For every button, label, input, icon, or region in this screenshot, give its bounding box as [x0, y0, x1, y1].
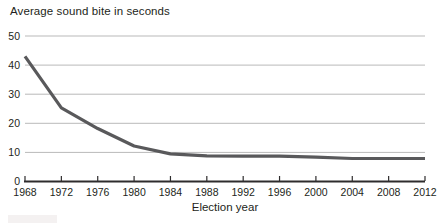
y-tick-label: 30 — [8, 88, 20, 100]
y-tick-label: 40 — [8, 59, 20, 71]
x-tick-label: 2008 — [377, 186, 401, 198]
soundbite-line-chart: 0102030405019681972197619801984198819921… — [0, 0, 439, 223]
x-axis-label: Election year — [25, 201, 425, 213]
x-tick-label: 2012 — [413, 186, 437, 198]
x-tick-label: 1992 — [232, 186, 256, 198]
x-tick-label: 1968 — [13, 186, 37, 198]
chart-canvas: 0102030405019681972197619801984198819921… — [0, 0, 439, 223]
x-tick-label: 1984 — [159, 186, 183, 198]
x-tick-label: 2000 — [304, 186, 328, 198]
x-tick-label: 1980 — [122, 186, 146, 198]
x-tick-label: 2004 — [341, 186, 365, 198]
x-tick-label: 1976 — [86, 186, 110, 198]
bottom-left-artifact — [8, 215, 57, 223]
y-tick-label: 50 — [8, 30, 20, 42]
chart-title: Average sound bite in seconds — [10, 5, 170, 17]
soundbite-trend-line — [25, 56, 425, 158]
y-tick-label: 20 — [8, 117, 20, 129]
x-tick-label: 1988 — [195, 186, 219, 198]
y-tick-label: 10 — [8, 146, 20, 158]
x-tick-label: 1996 — [268, 186, 292, 198]
x-tick-label: 1972 — [50, 186, 74, 198]
